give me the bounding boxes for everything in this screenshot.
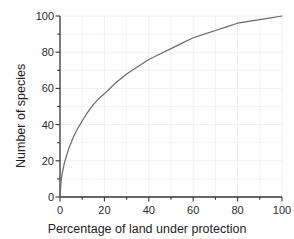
species-accumulation-chart: 020406080100 020406080100 Number of spec… xyxy=(0,0,294,239)
x-tick-label: 40 xyxy=(143,205,155,216)
y-tick-label: 100 xyxy=(22,11,54,22)
minor-tick-marks xyxy=(57,34,260,200)
x-tick-label: 100 xyxy=(273,205,291,216)
x-tick-label: 0 xyxy=(57,205,63,216)
x-tick-label: 20 xyxy=(98,205,110,216)
x-axis-title: Percentage of land under protection xyxy=(0,222,294,236)
major-tick-marks xyxy=(56,16,283,202)
y-tick-label: 0 xyxy=(22,192,54,203)
x-tick-label: 80 xyxy=(231,205,243,216)
x-tick-label: 60 xyxy=(187,205,199,216)
minor-gridlines xyxy=(60,16,282,197)
y-axis-title: Number of species xyxy=(14,64,28,168)
y-tick-label: 80 xyxy=(22,47,54,58)
